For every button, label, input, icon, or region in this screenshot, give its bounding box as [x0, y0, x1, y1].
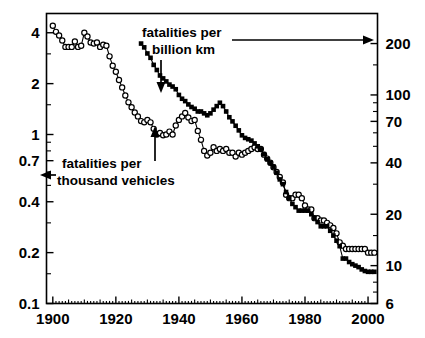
data-point [145, 51, 150, 56]
fatality-rate-chart: 190019201940196019802000 4210.70.40.20.1… [0, 0, 425, 338]
data-point [312, 216, 317, 221]
right-tick-label: 6 [386, 295, 394, 312]
data-point [237, 128, 242, 133]
left-tick-label: 2 [31, 75, 39, 92]
data-point [299, 196, 304, 201]
data-point [202, 148, 207, 153]
x-axis-tick-labels: 190019201940196019802000 [36, 310, 385, 327]
data-point [50, 23, 55, 28]
right-tick-label: 200 [386, 35, 411, 52]
data-point [233, 123, 238, 128]
x-tick-label: 1940 [162, 310, 195, 327]
data-point [334, 238, 339, 243]
data-point [69, 44, 74, 49]
chart-root: 190019201940196019802000 4210.70.40.20.1… [0, 0, 425, 338]
x-axis-ticks [53, 297, 368, 304]
x-tick-label: 2000 [351, 310, 384, 327]
left-tick-label: 0.4 [19, 193, 41, 210]
data-point [281, 182, 286, 187]
data-point [170, 132, 175, 137]
data-point [79, 43, 84, 48]
data-point [274, 170, 279, 175]
data-point [85, 34, 90, 39]
data-point [155, 68, 160, 73]
x-tick-label: 1960 [225, 310, 258, 327]
right-tick-label: 10 [386, 257, 403, 274]
data-point [325, 224, 330, 229]
data-point [287, 195, 292, 200]
left-tick-label: 0.1 [19, 295, 40, 312]
data-point [129, 105, 134, 110]
data-point [120, 85, 125, 90]
right-tick-label: 70 [386, 113, 403, 130]
annotation-billion-km-line1: fatalities per [142, 25, 222, 40]
data-point [60, 38, 65, 43]
data-point [284, 190, 289, 195]
data-point [110, 63, 115, 68]
left-axis-tick-labels: 4210.70.40.20.1 [19, 24, 41, 312]
annotation-thousand-vehicles-line1: fatalities per [62, 156, 142, 171]
left-tick-label: 0.7 [19, 152, 40, 169]
right-axis-ticks [371, 44, 378, 304]
annotation-thousand-vehicles-line2: thousand vehicles [57, 173, 175, 188]
annotation-billion-km-line2: billion km [152, 42, 215, 57]
data-point [126, 100, 131, 105]
series-fatalities-per-thousand-vehicles [50, 23, 377, 255]
data-point [195, 128, 200, 133]
data-point [259, 147, 264, 152]
series-line [141, 44, 374, 272]
x-tick-label: 1980 [288, 310, 321, 327]
right-tick-label: 20 [386, 206, 403, 223]
right-tick-label: 40 [386, 154, 403, 171]
right-axis-tick-labels: 200100704020106 [386, 35, 411, 312]
data-point [221, 104, 226, 109]
data-point [372, 270, 377, 275]
data-point [328, 228, 333, 233]
data-point [331, 233, 336, 238]
data-point [277, 177, 282, 182]
data-point [151, 63, 156, 68]
left-axis-ticks [47, 33, 54, 304]
annotation-arrowhead-down [157, 82, 166, 93]
data-point [262, 152, 267, 157]
data-point [192, 117, 197, 122]
series-fatalities-per-billion-km [139, 41, 377, 274]
data-point [113, 69, 118, 74]
data-point [173, 123, 178, 128]
data-point [135, 114, 140, 119]
left-tick-label: 0.2 [19, 244, 40, 261]
x-tick-label: 1900 [36, 310, 69, 327]
data-point [57, 33, 62, 38]
x-tick-label: 1920 [99, 310, 132, 327]
data-point [227, 115, 232, 120]
chart-annotations: fatalities perbillion kmfatalities perth… [40, 25, 374, 188]
data-point [337, 244, 342, 249]
right-tick-label: 100 [386, 86, 411, 103]
data-point [208, 150, 213, 155]
data-point [148, 120, 153, 125]
left-tick-label: 4 [31, 24, 40, 41]
data-point [271, 164, 276, 169]
data-point [107, 54, 112, 59]
data-point [72, 39, 77, 44]
data-point [142, 45, 147, 50]
data-point [224, 109, 229, 114]
left-tick-label: 1 [31, 126, 39, 143]
data-point [315, 220, 320, 225]
data-point [198, 137, 203, 142]
data-point [173, 87, 178, 92]
data-point [372, 250, 377, 255]
data-point [123, 93, 128, 98]
data-point [230, 119, 235, 124]
data-point [104, 43, 109, 48]
annotation-arrowhead-left [40, 171, 51, 180]
data-point [116, 77, 121, 82]
